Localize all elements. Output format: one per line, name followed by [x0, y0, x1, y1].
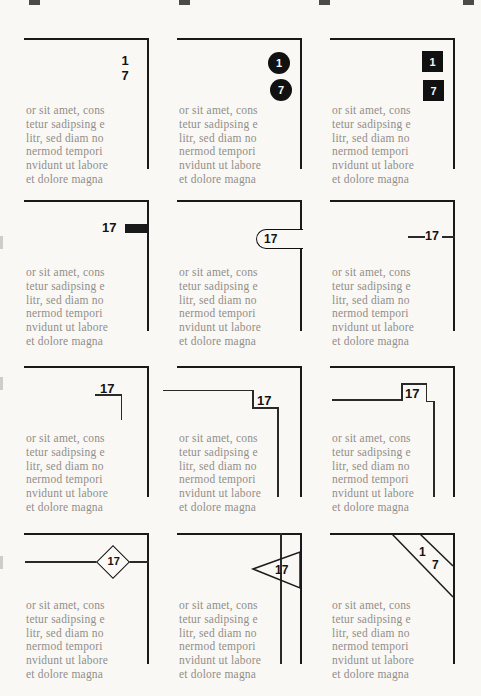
folio-number: 17 [257, 393, 271, 408]
step-rule-horizontal [163, 390, 253, 392]
placeholder-line: nermod tempori [179, 307, 304, 321]
sample-triangle: 17 or sit amet, cons tetur sadipsing e l… [163, 533, 313, 685]
notch-rule-top [401, 383, 427, 385]
placeholder-line: tetur sadipsing e [179, 446, 304, 460]
sample-rule-through: 17 or sit amet, cons tetur sadipsing e l… [316, 200, 466, 352]
folio-number: 17 [103, 555, 125, 567]
placeholder-text: or sit amet, cons tetur sadipsing e litr… [332, 266, 457, 349]
black-bar [125, 224, 149, 233]
notch-rule-left [401, 383, 403, 401]
placeholder-text: or sit amet, cons tetur sadipsing e litr… [332, 432, 457, 515]
folio-rule [25, 561, 149, 563]
placeholder-line: nvidunt ut labore [179, 159, 304, 173]
notch-rule-right [426, 383, 428, 402]
placeholder-line: tetur sadipsing e [332, 280, 457, 294]
placeholder-text: or sit amet, cons tetur sadipsing e litr… [26, 599, 151, 682]
placeholder-line: nvidunt ut labore [26, 487, 151, 501]
placeholder-line: litr, sed diam no [332, 627, 457, 641]
placeholder-line: litr, sed diam no [26, 460, 151, 474]
sample-rounded-tab: 17 or sit amet, cons tetur sadipsing e l… [163, 200, 313, 352]
page-edge-rule-top [24, 200, 149, 202]
placeholder-line: litr, sed diam no [26, 294, 151, 308]
placeholder-line: tetur sadipsing e [179, 280, 304, 294]
placeholder-line: nvidunt ut labore [332, 487, 457, 501]
placeholder-line: nermod tempori [179, 145, 304, 159]
page-edge-rule-top [24, 533, 149, 535]
placeholder-line: et dolore magna [179, 668, 304, 682]
page-edge-rule-top [177, 200, 302, 202]
placeholder-text: or sit amet, cons tetur sadipsing e litr… [26, 432, 151, 515]
placeholder-line: tetur sadipsing e [26, 280, 151, 294]
placeholder-line: or sit amet, cons [179, 599, 304, 613]
placeholder-line: nvidunt ut labore [179, 321, 304, 335]
placeholder-text: or sit amet, cons tetur sadipsing e litr… [179, 104, 304, 187]
placeholder-line: or sit amet, cons [26, 266, 151, 280]
registration-mark [319, 0, 330, 5]
placeholder-line: or sit amet, cons [26, 104, 151, 118]
folio-diamond: 17 [96, 545, 130, 579]
placeholder-line: tetur sadipsing e [332, 118, 457, 132]
bracket-rule-vertical [121, 394, 123, 420]
edge-tick-mark [0, 377, 3, 390]
placeholder-line: litr, sed diam no [179, 460, 304, 474]
folio-digit: 7 [278, 84, 284, 96]
placeholder-line: or sit amet, cons [26, 599, 151, 613]
placeholder-line: nvidunt ut labore [26, 321, 151, 335]
placeholder-line: tetur sadipsing e [179, 613, 304, 627]
step-rule-drop [252, 390, 254, 409]
folio-square-bottom: 7 [423, 80, 444, 101]
sample-black-bar: 17 or sit amet, cons tetur sadipsing e l… [10, 200, 160, 352]
placeholder-line: or sit amet, cons [332, 432, 457, 446]
page-edge-rule-top [330, 200, 455, 202]
folio-digit: 7 [430, 85, 436, 97]
placeholder-line: nvidunt ut labore [26, 654, 151, 668]
placeholder-line: litr, sed diam no [179, 132, 304, 146]
placeholder-text: or sit amet, cons tetur sadipsing e litr… [332, 104, 457, 187]
placeholder-line: nermod tempori [26, 145, 151, 159]
folio-number: 17 [425, 229, 439, 243]
sample-black-squares: 1 7 or sit amet, cons tetur sadipsing e … [316, 38, 466, 190]
sample-corner-bracket: 17 or sit amet, cons tetur sadipsing e l… [10, 366, 160, 518]
folio-digit: 1 [276, 57, 282, 69]
sample-diamond: 17 or sit amet, cons tetur sadipsing e l… [10, 533, 160, 685]
edge-tick-mark [0, 236, 3, 249]
placeholder-line: litr, sed diam no [26, 132, 151, 146]
registration-mark [463, 0, 474, 5]
placeholder-line: et dolore magna [179, 173, 304, 187]
folio-tab: 17 [256, 229, 303, 249]
placeholder-line: nvidunt ut labore [179, 654, 304, 668]
placeholder-line: nermod tempori [26, 640, 151, 654]
placeholder-line: or sit amet, cons [26, 432, 151, 446]
placeholder-text: or sit amet, cons tetur sadipsing e litr… [26, 104, 151, 187]
edge-tick-mark [0, 556, 3, 569]
placeholder-line: litr, sed diam no [332, 460, 457, 474]
folio-digit-top: 1 [419, 545, 426, 559]
placeholder-line: nermod tempori [179, 640, 304, 654]
placeholder-line: et dolore magna [332, 668, 457, 682]
placeholder-line: litr, sed diam no [332, 294, 457, 308]
placeholder-text: or sit amet, cons tetur sadipsing e litr… [179, 432, 304, 515]
placeholder-line: et dolore magna [332, 173, 457, 187]
page-edge-rule-top [330, 366, 455, 368]
placeholder-line: nermod tempori [332, 640, 457, 654]
page-edge-rule-top [177, 38, 302, 40]
placeholder-line: nvidunt ut labore [332, 654, 457, 668]
folio-number: 17 [405, 386, 419, 401]
placeholder-text: or sit amet, cons tetur sadipsing e litr… [179, 266, 304, 349]
placeholder-line: tetur sadipsing e [26, 613, 151, 627]
placeholder-line: litr, sed diam no [179, 294, 304, 308]
sample-diagonal-corner: 1 7 or sit amet, cons tetur sadipsing e … [316, 533, 466, 685]
folio-digit-top: 1 [115, 53, 135, 68]
registration-mark [179, 0, 190, 5]
placeholder-line: nermod tempori [332, 307, 457, 321]
bracket-rule-horizontal [95, 394, 122, 396]
sample-plain-stacked: 1 7 or sit amet, cons tetur sadipsing e … [10, 38, 160, 190]
folio-number: 17 [102, 220, 116, 235]
placeholder-line: et dolore magna [332, 335, 457, 349]
scanned-book-page: 1 7 or sit amet, cons tetur sadipsing e … [0, 0, 481, 696]
placeholder-line: nvidunt ut labore [332, 159, 457, 173]
registration-mark [29, 0, 40, 5]
placeholder-line: nermod tempori [332, 473, 457, 487]
folio-circle-top: 1 [268, 52, 290, 74]
placeholder-line: et dolore magna [26, 173, 151, 187]
